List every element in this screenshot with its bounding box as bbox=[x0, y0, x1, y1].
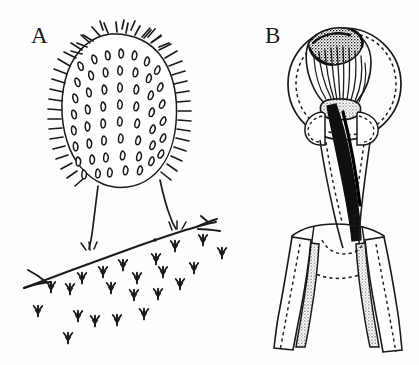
stalk-left bbox=[89, 186, 98, 249]
figure-root: A B bbox=[0, 0, 419, 365]
dark-column-band bbox=[327, 104, 361, 241]
panel-a-drawing bbox=[24, 20, 226, 343]
branch-right bbox=[356, 237, 402, 352]
stolon-branchlet bbox=[28, 270, 46, 282]
substrate-marks bbox=[34, 235, 227, 344]
figure-illustration bbox=[0, 0, 419, 365]
stolon bbox=[24, 216, 220, 288]
panel-label-b: B bbox=[265, 24, 281, 47]
panel-b-drawing bbox=[274, 28, 402, 352]
stolon-node bbox=[153, 238, 156, 241]
stalk-right bbox=[160, 180, 176, 229]
branch-left bbox=[274, 237, 319, 350]
stolon-tip-spur bbox=[201, 216, 208, 222]
polyp-stalks bbox=[89, 180, 176, 249]
stolon-tip-lower bbox=[198, 229, 220, 231]
panel-label-a: A bbox=[31, 24, 48, 47]
